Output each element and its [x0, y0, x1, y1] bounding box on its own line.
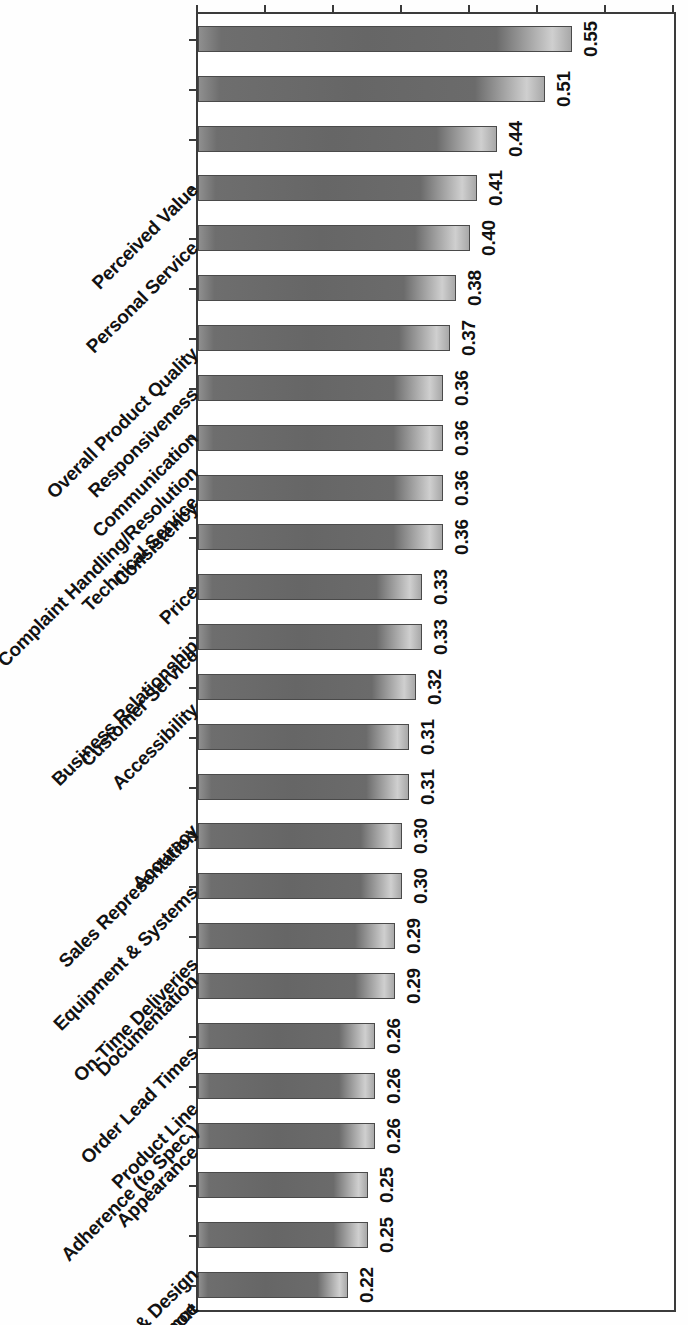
bar-value-label: 0.36	[451, 519, 473, 555]
category-axis-tick	[189, 1036, 198, 1038]
bar-slot: 0.36	[198, 512, 674, 562]
category-axis-tick	[189, 288, 198, 290]
bar-value-label: 0.25	[376, 1167, 398, 1203]
bar-value-label: 0.33	[430, 569, 452, 605]
bar	[198, 275, 456, 301]
value-axis-tick: 0.00	[196, 5, 198, 14]
bar	[198, 823, 402, 849]
bar	[198, 973, 395, 999]
category-label: Personal Service	[82, 237, 202, 357]
bar-slot: 0.37	[198, 313, 674, 363]
bar-slot: 0.30	[198, 812, 674, 862]
bar-value-label: 0.26	[383, 1118, 405, 1154]
bar-value-label: 0.30	[410, 868, 432, 904]
bar-slot: 0.36	[198, 463, 674, 513]
bar-value-label: 0.29	[403, 968, 425, 1004]
rotated-page-canvas: 0.700.600.500.400.300.200.100.00 0.550.5…	[0, 0, 688, 1325]
value-axis-tick: 0.70	[672, 5, 674, 14]
bar	[198, 574, 422, 600]
category-axis-tick	[189, 687, 198, 689]
bar-slot: 0.41	[198, 164, 674, 214]
bar-value-label: 0.26	[383, 1068, 405, 1104]
bar-value-label: 0.31	[417, 769, 439, 805]
bar-slot: 0.36	[198, 413, 674, 463]
category-axis-tick	[189, 338, 198, 340]
bar-value-label: 0.36	[451, 420, 473, 456]
bar-slot: 0.26	[198, 1011, 674, 1061]
bar	[198, 225, 470, 251]
bar-value-label: 0.29	[403, 918, 425, 954]
bar-slot: 0.40	[198, 213, 674, 263]
bar	[198, 1172, 368, 1198]
bar-value-label: 0.55	[580, 21, 602, 57]
value-axis-tick: 0.30	[400, 5, 402, 14]
bar-value-label: 0.33	[430, 619, 452, 655]
bar	[198, 873, 402, 899]
bar-slot: 0.51	[198, 64, 674, 114]
bar-slot: 0.44	[198, 114, 674, 164]
bar	[198, 475, 443, 501]
bar	[198, 1222, 368, 1248]
bar-slot: 0.26	[198, 1111, 674, 1161]
category-label: Price	[155, 582, 202, 629]
bar	[198, 425, 443, 451]
category-axis-tick	[189, 89, 198, 91]
bar-value-label: 0.40	[478, 220, 500, 256]
bar-value-label: 0.37	[458, 320, 480, 356]
bar	[198, 774, 409, 800]
category-axis-tick	[189, 936, 198, 938]
bar-value-label: 0.36	[451, 470, 473, 506]
value-axis-tick: 0.20	[332, 5, 334, 14]
bar-value-label: 0.36	[451, 370, 473, 406]
bar-value-label: 0.41	[485, 171, 507, 207]
bar-slot: 0.22	[198, 1260, 674, 1310]
bar	[198, 175, 477, 201]
bar-slot: 0.55	[198, 14, 674, 64]
bar-value-label: 0.38	[464, 270, 486, 306]
bar-value-label: 0.26	[383, 1018, 405, 1054]
category-axis-tick	[189, 1235, 198, 1237]
bar	[198, 674, 416, 700]
bar-slot: 0.26	[198, 1061, 674, 1111]
category-label: Perceived Value	[88, 179, 203, 294]
bar	[198, 1073, 375, 1099]
bar	[198, 76, 545, 102]
bar-value-label: 0.30	[410, 819, 432, 855]
category-axis-tick	[189, 139, 198, 141]
bar-value-label: 0.25	[376, 1217, 398, 1253]
bar-slot: 0.31	[198, 712, 674, 762]
bar-slot: 0.30	[198, 861, 674, 911]
bar-slot: 0.32	[198, 662, 674, 712]
bar-slot: 0.25	[198, 1160, 674, 1210]
bar-value-label: 0.31	[417, 719, 439, 755]
bar-slot: 0.36	[198, 363, 674, 413]
bar-value-label: 0.22	[356, 1267, 378, 1303]
bar-slot: 0.29	[198, 911, 674, 961]
bar	[198, 1023, 375, 1049]
category-axis-tick	[189, 39, 198, 41]
bar-value-label: 0.51	[553, 71, 575, 107]
category-axis-tick	[189, 1185, 198, 1187]
category-label: Accuracy	[128, 820, 202, 894]
bar-slot: 0.38	[198, 263, 674, 313]
bar	[198, 1123, 375, 1149]
bar	[198, 724, 409, 750]
bar-slot: 0.29	[198, 961, 674, 1011]
value-axis-tick: 0.40	[468, 5, 470, 14]
bar	[198, 26, 572, 52]
category-axis-tick	[189, 787, 198, 789]
bar-slot: 0.25	[198, 1210, 674, 1260]
bar-slot: 0.31	[198, 762, 674, 812]
value-axis-tick: 0.50	[536, 5, 538, 14]
category-axis-tick	[189, 1086, 198, 1088]
bar-value-label: 0.44	[505, 121, 527, 157]
bar	[198, 126, 497, 152]
bar	[198, 524, 443, 550]
category-axis-tick	[189, 537, 198, 539]
bar-slot: 0.33	[198, 562, 674, 612]
value-axis-tick: 0.10	[264, 5, 266, 14]
bar	[198, 1272, 348, 1298]
bar	[198, 375, 443, 401]
plot-area: 0.700.600.500.400.300.200.100.00 0.550.5…	[196, 12, 676, 1312]
category-axis-tick	[189, 737, 198, 739]
